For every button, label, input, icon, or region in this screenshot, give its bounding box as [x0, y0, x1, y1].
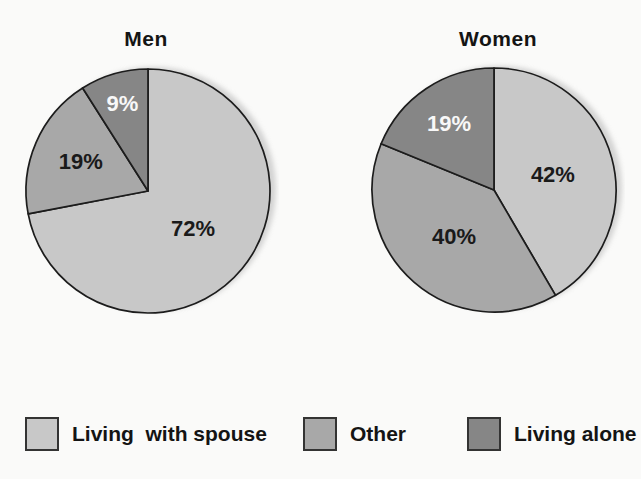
legend-item-living-with-spouse: Living with spouse: [25, 417, 267, 451]
legend-item-other: Other: [303, 417, 406, 451]
pie-slice-label: 19%: [427, 111, 471, 136]
pie-slice-label: 9%: [107, 91, 139, 116]
legend-item-living-alone: Living alone: [467, 417, 637, 451]
pie-slice-label: 72%: [171, 216, 215, 241]
legend-label-living-with-spouse: Living with spouse: [72, 422, 267, 446]
pie-chart-women: 42%40%19%: [363, 59, 625, 321]
legend: Living with spouse Other Living alone: [0, 417, 641, 453]
legend-label-other: Other: [350, 422, 406, 446]
legend-label-living-alone: Living alone: [514, 422, 637, 446]
chart-title-men: Men: [124, 27, 168, 51]
pie-slice-label: 40%: [432, 224, 476, 249]
legend-swatch-other: [303, 417, 337, 451]
pie-chart-men: 72%19%9%: [17, 60, 279, 322]
chart-title-women: Women: [459, 27, 537, 51]
pie-slice-label: 19%: [59, 149, 103, 174]
legend-swatch-living-with-spouse: [25, 417, 59, 451]
legend-swatch-living-alone: [467, 417, 501, 451]
pie-slice-label: 42%: [531, 162, 575, 187]
